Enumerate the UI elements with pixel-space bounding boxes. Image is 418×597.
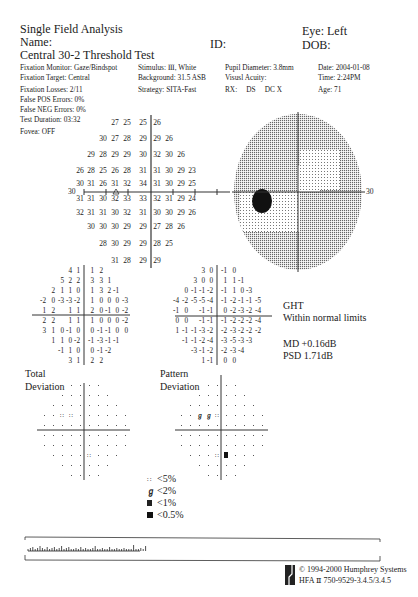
version: HFA Ⅱ 750-9529-3.4.5/3.4.5 xyxy=(299,576,391,585)
copyright: © 1994-2000 Humphrey Systems xyxy=(299,565,407,574)
humphrey-logo-icon xyxy=(285,565,295,585)
gaze-tracker xyxy=(0,0,418,597)
